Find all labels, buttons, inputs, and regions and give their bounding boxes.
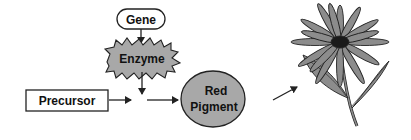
arrow-to-flower <box>273 87 297 100</box>
gene-label: Gene <box>126 13 156 27</box>
precursor-node: Precursor <box>26 90 108 111</box>
red-pigment-node: Red Pigment <box>181 71 245 127</box>
gene-pathway-diagram: Gene Enzyme Precursor Red Pigment <box>0 0 411 140</box>
flower-center <box>331 36 349 48</box>
precursor-label: Precursor <box>39 94 96 108</box>
red-pigment-label-line2: Pigment <box>190 100 237 114</box>
gene-node: Gene <box>117 9 165 29</box>
enzyme-label: Enzyme <box>119 52 165 66</box>
flower-illustration <box>291 2 389 126</box>
red-pigment-label-line1: Red <box>205 84 228 98</box>
